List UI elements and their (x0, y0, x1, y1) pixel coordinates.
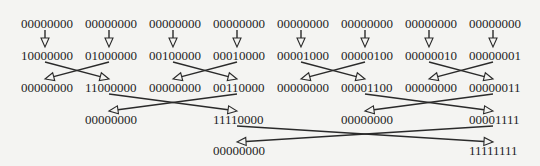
butterfly-diagram: 0000000000000000000000000000000000000000… (0, 0, 540, 166)
node-label: 00000000 (405, 17, 457, 31)
arrowhead-icon (361, 38, 369, 47)
diagram-edges (0, 0, 540, 166)
arrowhead-icon (233, 38, 241, 47)
node-label: 00000001 (469, 49, 521, 63)
node-label: 11000000 (85, 81, 137, 95)
arrow-edge (361, 30, 369, 47)
node-label: 00000100 (341, 49, 393, 63)
node-label: 00110000 (213, 81, 265, 95)
arrowhead-icon (297, 38, 305, 47)
node-label: 00001100 (341, 81, 393, 95)
node-label: 00000010 (405, 49, 457, 63)
node-label: 00000011 (469, 81, 521, 95)
node-label: 00000000 (149, 81, 201, 95)
node-label: 00000000 (85, 113, 137, 127)
arrow-edge (169, 30, 177, 47)
node-label: 00000000 (21, 81, 73, 95)
node-label: 00000000 (277, 81, 329, 95)
arrowhead-icon (169, 38, 177, 47)
arrow-edge (489, 30, 497, 47)
node-label: 00000000 (149, 17, 201, 31)
node-label: 00000000 (341, 17, 393, 31)
arrowhead-icon (489, 38, 497, 47)
node-label: 00001000 (277, 49, 329, 63)
node-label: 00000000 (405, 81, 457, 95)
arrowhead-icon (425, 38, 433, 47)
node-label: 00100000 (149, 49, 201, 63)
arrowhead-icon (105, 38, 113, 47)
arrow-edge (297, 30, 305, 47)
arrow-edge (425, 30, 433, 47)
node-label: 11111111 (469, 144, 518, 158)
node-label: 00000000 (213, 17, 265, 31)
node-label: 00000000 (213, 144, 265, 158)
node-label: 00000000 (21, 17, 73, 31)
node-label: 00000000 (341, 113, 393, 127)
node-label: 00001111 (469, 113, 520, 127)
node-label: 00000000 (85, 17, 137, 31)
arrow-edge (41, 30, 49, 47)
node-label: 10000000 (21, 49, 73, 63)
arrow-edge (233, 30, 241, 47)
node-label: 01000000 (85, 49, 137, 63)
node-label: 11110000 (213, 113, 264, 127)
node-label: 00000000 (469, 17, 521, 31)
arrowhead-icon (41, 38, 49, 47)
node-label: 00000000 (277, 17, 329, 31)
node-label: 00010000 (213, 49, 265, 63)
arrow-edge (105, 30, 113, 47)
